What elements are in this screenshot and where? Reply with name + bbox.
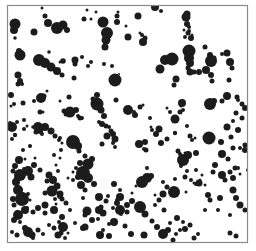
ink-blob [125,25,128,28]
ink-blob [77,160,83,166]
ink-blob [42,94,47,99]
ink-blob [171,115,180,124]
ink-blob [125,210,130,215]
ink-blob [157,198,162,203]
ink-blob [86,9,89,12]
ink-blob [154,194,157,197]
ink-blob [123,105,133,115]
ink-blob [94,92,100,98]
ink-blob [178,228,182,232]
ink-blob [183,175,188,180]
ink-blob [26,125,29,128]
ink-blob [102,62,106,66]
ink-blob [165,185,170,190]
ink-blob [28,174,35,181]
ink-blob [34,157,37,160]
ink-blob [76,114,80,118]
ink-blob [186,31,191,36]
ink-blob [223,178,228,183]
ink-blob [97,120,101,124]
ink-blob [77,181,85,189]
ink-blob [212,56,217,61]
ink-blob [12,203,17,208]
ink-blob [139,32,142,35]
ink-blob [44,19,52,27]
ink-blob [89,156,95,162]
ink-blob [46,90,49,93]
ink-blob [162,208,167,213]
ink-blob [82,224,89,231]
ink-blob [172,83,177,88]
ink-blob [234,234,239,239]
ink-blob [12,102,16,106]
ink-blob [15,192,29,206]
ink-blob [125,34,132,41]
ink-blob [102,36,111,45]
ink-blob [91,181,97,187]
ink-blob [111,181,117,187]
ink-blob [21,101,26,106]
ink-blob [56,169,60,173]
ink-blob [224,50,231,57]
ink-blob [115,205,125,215]
ink-blob [10,125,16,131]
ink-blob [150,128,154,132]
ink-blob [168,186,180,198]
ink-blob [128,231,134,237]
ink-blob [193,150,199,156]
ink-blob [142,139,148,145]
ink-blob [41,7,44,10]
ink-blob [226,58,234,66]
ink-blob [212,162,218,168]
ink-blob [54,183,61,190]
ink-blob [179,164,183,168]
ink-blob [111,206,115,210]
ink-blob [227,78,232,83]
ink-blob [135,13,142,20]
ink-blob [16,48,22,54]
ink-blob [47,223,51,227]
ink-blob [86,64,90,68]
ink-blob [107,125,111,129]
ink-blob [188,35,194,41]
ink-blob [236,98,240,102]
ink-blob [223,92,231,100]
ink-blob [64,201,69,206]
ink-blob [166,53,179,66]
ink-blob [230,187,237,194]
ink-blob [240,116,245,121]
ink-blob [29,232,36,239]
ink-blob [234,111,239,116]
ink-blob [52,226,57,231]
ink-blob [13,133,17,137]
ink-blob [59,100,62,103]
ink-blob [243,208,248,213]
ink-blob [192,236,197,241]
ink-blob [113,145,117,149]
ink-blob [73,107,79,113]
ink-blob [192,70,197,75]
ink-blob [104,199,109,204]
ink-blob [153,203,157,207]
ink-blob [67,177,70,180]
ink-blob [188,223,193,228]
ink-blob [102,44,109,51]
ink-blob [106,194,110,198]
ink-blob [231,119,235,123]
ink-blob [10,230,14,234]
ink-blob [165,227,171,233]
ink-blob [181,108,185,112]
ink-blob [59,157,62,160]
ink-blob [101,113,107,119]
ink-blob [228,170,233,175]
ink-blob [237,202,244,209]
ink-blob [31,162,37,168]
ink-blob [15,72,22,79]
ink-blob [52,153,56,157]
ink-blob [73,221,77,225]
ink-blob [235,127,241,133]
ink-blob [35,205,41,211]
ink-blob [55,164,58,167]
ink-blob [16,82,21,87]
ink-blob [184,151,192,159]
